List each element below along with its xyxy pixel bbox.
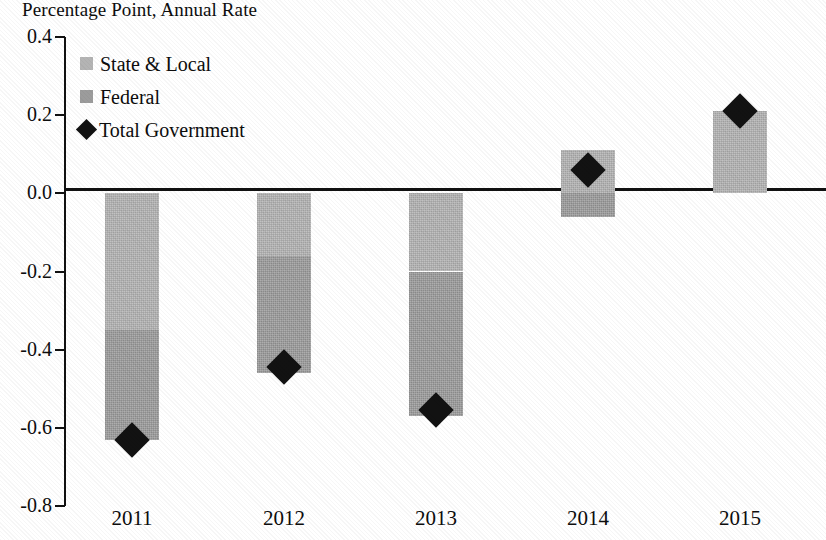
x-axis-tick-label: 2013	[376, 506, 496, 530]
x-axis-tick-label: 2011	[72, 506, 192, 530]
y-axis-tick-label-wrap: 0.4	[0, 26, 52, 46]
bar-group	[561, 0, 615, 540]
y-axis-tick-label: -0.4	[0, 339, 52, 359]
legend-label-total-government: Total Government	[99, 119, 245, 141]
bar-segment-state-local	[257, 193, 311, 256]
plot-area: 0.40.20.0-0.2-0.4-0.6-0.8 20112012201320…	[0, 0, 826, 540]
y-axis-tick-mark	[55, 427, 65, 429]
legend-diamond-icon-total-government	[76, 119, 97, 140]
bar-segment-federal	[561, 193, 615, 216]
legend-item-total-government: Total Government	[80, 113, 340, 146]
y-axis-tick-label-wrap: -0.4	[0, 339, 52, 359]
bar-group	[713, 0, 767, 540]
chart-legend: State & Local Federal Total Government	[80, 47, 340, 146]
legend-item-state-local: State & Local	[80, 47, 340, 80]
bar-group	[409, 0, 463, 540]
y-axis-tick-mark	[55, 114, 65, 116]
bar-segment-state-local	[105, 193, 159, 330]
x-axis-tick-label: 2015	[680, 506, 800, 530]
y-axis-tick-label-wrap: 0.0	[0, 182, 52, 202]
legend-label-federal: Federal	[100, 86, 160, 108]
legend-swatch-icon-federal	[80, 90, 93, 103]
legend-swatch-icon-state-local	[80, 57, 93, 70]
y-axis-tick-mark	[55, 192, 65, 194]
x-axis-tick-label: 2014	[528, 506, 648, 530]
chart-figure: Percentage Point, Annual Rate 0.40.20.0-…	[0, 0, 826, 540]
y-axis-tick-label-wrap: -0.8	[0, 495, 52, 515]
y-axis-tick-label-wrap: -0.6	[0, 417, 52, 437]
y-axis-tick-label: 0.4	[0, 26, 52, 46]
y-axis-tick-label-wrap: -0.2	[0, 261, 52, 281]
y-axis-tick-mark	[55, 36, 65, 38]
y-axis-tick-label: -0.6	[0, 417, 52, 437]
y-axis-tick-mark	[55, 349, 65, 351]
legend-label-state-local: State & Local	[100, 53, 211, 75]
y-axis-tick-label: -0.2	[0, 261, 52, 281]
legend-item-federal: Federal	[80, 80, 340, 113]
y-axis-tick-label: -0.8	[0, 495, 52, 515]
bar-segment-state-local	[409, 193, 463, 271]
y-axis-tick-label: 0.0	[0, 182, 52, 202]
x-axis-tick-label: 2012	[224, 506, 344, 530]
y-axis-tick-label: 0.2	[0, 104, 52, 124]
y-axis-tick-mark	[55, 505, 65, 507]
y-axis-tick-label-wrap: 0.2	[0, 104, 52, 124]
y-axis-tick-mark	[55, 271, 65, 273]
